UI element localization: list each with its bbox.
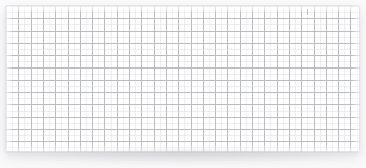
screen-root xyxy=(0,0,366,168)
grid-edge-fade xyxy=(5,5,360,152)
sheet-border xyxy=(5,5,360,152)
sheet-drop-shadow xyxy=(14,150,351,164)
major-grid-lines xyxy=(5,5,360,152)
top-tick-marker xyxy=(307,9,308,15)
grid-sheet[interactable] xyxy=(5,5,360,152)
minor-grid-lines xyxy=(5,5,360,152)
